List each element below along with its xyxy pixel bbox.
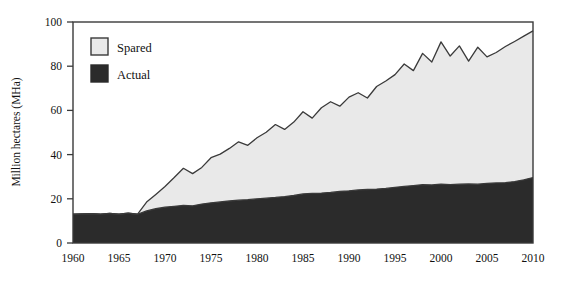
y-axis-title: Million hectares (MHa): [10, 77, 23, 186]
x-tick-label: 1975: [200, 252, 223, 264]
area-chart: 020406080100 196019651970197519801985199…: [0, 0, 566, 286]
legend-swatch-actual: [91, 65, 108, 82]
y-tick-label: 60: [51, 104, 63, 116]
x-tick-label: 2005: [476, 252, 499, 264]
legend-item-actual: Actual: [91, 65, 151, 82]
chart-container: 020406080100 196019651970197519801985199…: [0, 0, 566, 286]
y-axis-ticks: 020406080100: [45, 16, 73, 249]
y-tick-label: 40: [51, 149, 63, 161]
x-tick-label: 1960: [62, 252, 85, 264]
x-tick-label: 1965: [108, 252, 131, 264]
x-tick-label: 1970: [154, 252, 177, 264]
x-tick-label: 1980: [246, 252, 269, 264]
y-tick-label: 80: [51, 60, 63, 72]
x-tick-label: 1990: [338, 252, 361, 264]
y-tick-label: 0: [56, 237, 62, 249]
y-axis-title-text: Million hectares (MHa): [10, 77, 23, 186]
y-tick-label: 100: [45, 16, 63, 28]
x-tick-label: 2000: [430, 252, 453, 264]
legend-label-actual: Actual: [117, 68, 151, 82]
x-tick-label: 2010: [522, 252, 545, 264]
x-axis-ticks: 1960196519701975198019851990199520002005…: [62, 252, 545, 264]
legend-label-spared: Spared: [117, 41, 152, 55]
x-tick-label: 1985: [292, 252, 315, 264]
legend-swatch-spared: [91, 38, 108, 55]
legend-item-spared: Spared: [91, 38, 152, 55]
x-tick-label: 1995: [384, 252, 407, 264]
y-tick-label: 20: [51, 193, 63, 205]
